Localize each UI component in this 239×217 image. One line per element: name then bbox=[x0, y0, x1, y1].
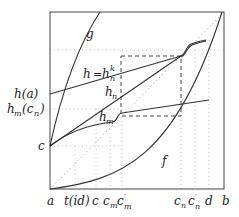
label-f: f bbox=[161, 154, 169, 168]
svg-text:m: m bbox=[14, 109, 22, 118]
svg-text:m: m bbox=[124, 202, 132, 211]
svg-text:k: k bbox=[110, 64, 115, 73]
svg-text:c: c bbox=[174, 194, 181, 208]
svg-text:c: c bbox=[103, 194, 110, 208]
svg-text:h: h bbox=[83, 67, 91, 81]
label-d: d bbox=[205, 194, 213, 208]
svg-text:=: = bbox=[93, 68, 102, 81]
curve-h-m bbox=[50, 100, 209, 146]
label-cm: c m bbox=[103, 194, 118, 210]
label-cn: c n bbox=[174, 194, 186, 210]
function-diagram: g f h = h k n h n h m h(a) h m (c n ) c … bbox=[0, 0, 239, 217]
label-t-id: t(id) bbox=[64, 194, 90, 208]
label-c-left: c bbox=[38, 139, 45, 153]
svg-text:n: n bbox=[181, 201, 186, 210]
label-hm-cn: h m (c n ) bbox=[7, 102, 45, 118]
svg-text:c: c bbox=[117, 194, 124, 208]
svg-text:h: h bbox=[102, 67, 110, 81]
svg-text:): ) bbox=[39, 102, 45, 116]
svg-text:n: n bbox=[34, 109, 39, 118]
svg-text:′: ′ bbox=[124, 192, 126, 201]
label-g: g bbox=[86, 27, 94, 41]
label-hn: h n bbox=[105, 85, 117, 101]
label-h-eq-hnk: h = h k n bbox=[83, 64, 115, 83]
label-a: a bbox=[47, 194, 54, 208]
label-cn-prime: c ′ n bbox=[188, 192, 200, 211]
horizontal-guides bbox=[50, 50, 224, 146]
curve-h-n bbox=[50, 56, 181, 146]
svg-text:n: n bbox=[195, 202, 200, 211]
svg-text:c: c bbox=[188, 194, 195, 208]
svg-text:(c: (c bbox=[22, 102, 34, 116]
svg-text:′: ′ bbox=[195, 192, 197, 201]
label-cm-prime: c ′ m bbox=[117, 192, 132, 211]
label-hm: h m bbox=[99, 110, 114, 126]
label-h-a: h(a) bbox=[14, 87, 39, 101]
svg-text:n: n bbox=[110, 74, 115, 83]
svg-text:n: n bbox=[112, 92, 117, 101]
label-b: b bbox=[222, 194, 230, 208]
label-c: c bbox=[92, 194, 99, 208]
svg-text:m: m bbox=[106, 117, 114, 126]
curve-f bbox=[50, 12, 222, 189]
identity-diagonal bbox=[50, 12, 224, 189]
